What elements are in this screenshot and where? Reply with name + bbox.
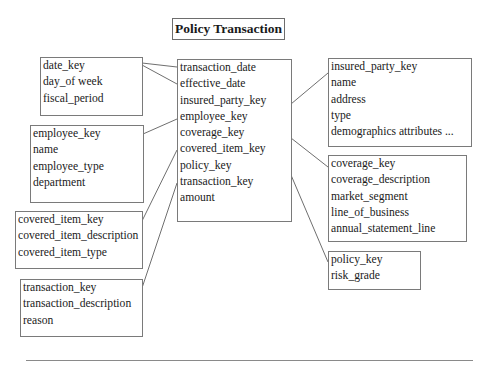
dimension-field: transaction_key <box>23 280 142 296</box>
link-coverage <box>291 138 328 167</box>
dimension-field: insured_party_key <box>331 59 471 75</box>
dimension-field: market_segment <box>331 189 466 205</box>
dimension-field: date_key <box>43 58 142 74</box>
dimension-field: fiscal_period <box>43 91 142 107</box>
dimension-field: name <box>331 75 471 91</box>
fact-field: policy_key <box>180 158 291 174</box>
dimension-field: covered_item_key <box>18 212 142 228</box>
fact-field: amount <box>180 190 291 206</box>
dimension-field: name <box>33 142 143 158</box>
fact-field: insured_party_key <box>180 93 291 109</box>
dimension-field: day_of week <box>43 74 142 90</box>
fact-table-box: transaction_date effective_date insured_… <box>177 59 292 222</box>
bottom-divider <box>26 360 473 361</box>
link-transaction <box>142 183 177 288</box>
dimension-field: coverage_key <box>331 156 466 172</box>
dimension-field: risk_grade <box>331 268 420 284</box>
insured-party-dimension-box: insured_party_key name address type demo… <box>328 58 472 147</box>
coverage-dimension-box: coverage_key coverage_description market… <box>328 155 467 242</box>
dimension-field: type <box>331 108 471 124</box>
covered-item-dimension-box: covered_item_key covered_item_descriptio… <box>15 211 143 269</box>
link-date-effective-date <box>142 65 177 84</box>
link-policy <box>291 175 328 262</box>
policy-dimension-box: policy_key risk_grade <box>328 251 421 290</box>
fact-field: effective_date <box>180 76 291 92</box>
dimension-field: annual_statement_line <box>331 221 466 237</box>
link-date-transaction-date <box>142 63 177 67</box>
dimension-field: coverage_description <box>331 172 466 188</box>
fact-field: employee_key <box>180 109 291 125</box>
dimension-field: covered_item_description <box>18 228 142 244</box>
fact-field: transaction_date <box>180 60 291 76</box>
fact-field: covered_item_key <box>180 141 291 157</box>
dimension-field: department <box>33 175 143 191</box>
dimension-field: transaction_description <box>23 296 142 312</box>
dimension-field: reason <box>23 313 142 329</box>
dimension-field: line_of_business <box>331 205 466 221</box>
link-insured-party <box>291 73 328 104</box>
dimension-field: employee_type <box>33 159 143 175</box>
dimension-field: covered_item_type <box>18 245 142 261</box>
fact-field: transaction_key <box>180 174 291 190</box>
employee-dimension-box: employee_key name employee_type departme… <box>30 125 144 203</box>
dimension-field: demographics attributes ... <box>331 124 471 140</box>
link-employee <box>143 119 177 134</box>
dimension-field: policy_key <box>331 252 420 268</box>
dimension-field: address <box>331 92 471 108</box>
dimension-field: employee_key <box>33 126 143 142</box>
date-dimension-box: date_key day_of week fiscal_period <box>40 57 143 116</box>
link-covered-item <box>142 150 177 221</box>
transaction-dimension-box: transaction_key transaction_description … <box>20 279 143 337</box>
fact-field: coverage_key <box>180 125 291 141</box>
